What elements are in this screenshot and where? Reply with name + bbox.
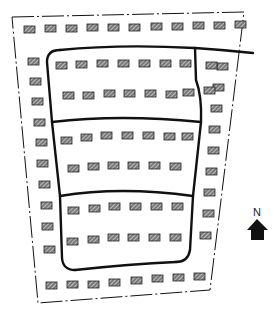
building xyxy=(34,119,45,126)
building-group-left-column xyxy=(28,58,55,253)
building xyxy=(101,132,112,139)
bottom-road xyxy=(75,262,176,270)
building xyxy=(211,105,222,112)
middle-cross-road-1 xyxy=(52,118,201,122)
left-road xyxy=(47,50,75,270)
building xyxy=(203,210,214,217)
building xyxy=(39,181,50,188)
boundary-line xyxy=(12,12,244,303)
building xyxy=(180,60,191,67)
building xyxy=(151,23,162,30)
building xyxy=(204,189,215,196)
building xyxy=(28,58,39,65)
building xyxy=(173,274,184,281)
building xyxy=(166,91,177,98)
buildings xyxy=(24,21,246,289)
building-group-block1-row1 xyxy=(56,60,191,69)
building xyxy=(139,60,150,67)
building xyxy=(152,275,163,282)
building xyxy=(208,147,219,154)
building-group-bottom-row xyxy=(46,273,205,289)
north-arrow-shape xyxy=(247,219,268,240)
building xyxy=(172,23,183,30)
building xyxy=(66,25,77,32)
building xyxy=(164,133,175,140)
building xyxy=(183,89,194,96)
building xyxy=(76,61,87,68)
building xyxy=(217,63,228,70)
building xyxy=(89,205,100,212)
building xyxy=(41,202,52,209)
building xyxy=(149,234,160,241)
building xyxy=(182,133,193,140)
building-group-block2-row1 xyxy=(61,132,193,144)
building xyxy=(194,273,205,280)
building xyxy=(108,234,119,241)
building xyxy=(172,203,183,210)
building xyxy=(87,24,98,31)
building xyxy=(143,132,154,139)
building xyxy=(206,62,217,69)
building xyxy=(42,223,53,230)
building xyxy=(88,236,99,243)
middle-cross-road-2 xyxy=(60,191,193,196)
building xyxy=(204,87,215,94)
building xyxy=(97,60,108,67)
building xyxy=(129,24,140,31)
building xyxy=(151,203,162,210)
building xyxy=(131,277,142,284)
building xyxy=(193,22,204,29)
building xyxy=(81,134,92,141)
building xyxy=(83,92,94,99)
building-group-block1-extra xyxy=(204,62,217,94)
building xyxy=(235,21,246,28)
building xyxy=(200,232,211,239)
building xyxy=(130,203,141,210)
building-group-top-row xyxy=(24,21,246,33)
building xyxy=(118,60,129,67)
building xyxy=(170,163,181,170)
building xyxy=(67,238,78,245)
building xyxy=(61,137,72,144)
building xyxy=(214,22,225,29)
building xyxy=(160,60,171,67)
building xyxy=(206,168,217,175)
building xyxy=(68,207,79,214)
right-road xyxy=(176,48,201,262)
building xyxy=(88,163,99,170)
north-arrow-icon xyxy=(247,219,268,240)
building xyxy=(109,279,120,286)
building xyxy=(88,281,99,288)
north-label: N xyxy=(253,206,261,218)
building xyxy=(68,165,79,172)
building xyxy=(36,139,47,146)
building xyxy=(37,160,48,167)
site-plan-diagram xyxy=(0,0,274,314)
building xyxy=(63,92,74,99)
building xyxy=(30,78,41,85)
building xyxy=(149,162,160,169)
building xyxy=(109,203,120,210)
building-group-block2-row2 xyxy=(68,162,181,172)
building xyxy=(124,90,135,97)
building xyxy=(209,126,220,133)
top-road xyxy=(60,46,253,53)
building xyxy=(108,162,119,169)
building xyxy=(56,62,67,69)
building xyxy=(170,234,181,241)
building xyxy=(67,281,78,288)
building xyxy=(104,90,115,97)
building xyxy=(32,98,43,105)
building xyxy=(45,25,56,32)
building-group-block3-row1 xyxy=(68,203,183,214)
building-group-block1-row2 xyxy=(63,89,194,99)
building xyxy=(44,246,55,253)
building xyxy=(128,234,139,241)
building xyxy=(24,26,35,33)
building xyxy=(46,282,57,289)
site-boundary xyxy=(12,12,244,303)
building-group-block3-row2 xyxy=(67,234,181,245)
building xyxy=(128,162,139,169)
building xyxy=(145,90,156,97)
building xyxy=(108,24,119,31)
